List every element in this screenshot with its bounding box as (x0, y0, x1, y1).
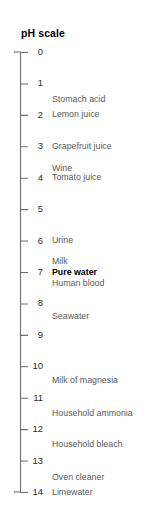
ph-scale-figure: pH scale 01234567891011121314 Stomach ac… (0, 0, 160, 522)
tick-label: 3 (0, 140, 43, 151)
tick-label: 9 (0, 329, 43, 340)
substance-label: Oven cleaner (52, 472, 104, 483)
tick-label: 10 (0, 360, 43, 371)
tick-label: 12 (0, 423, 43, 434)
tick-label: 0 (0, 46, 43, 57)
substance-label: Stomach acid (52, 94, 105, 105)
substance-label: Pure water (52, 267, 97, 278)
tick-label: 7 (0, 266, 43, 277)
substance-label: Grapefruit juice (52, 141, 112, 152)
substance-label: Household ammonia (52, 408, 133, 419)
tick-label: 6 (0, 235, 43, 246)
tick-label: 4 (0, 172, 43, 183)
tick-label: 8 (0, 297, 43, 308)
tick-label: 11 (0, 392, 43, 403)
tick-label: 14 (0, 486, 43, 497)
substance-label: Human blood (52, 278, 104, 289)
substance-label: Urine (52, 235, 73, 246)
tick-label: 5 (0, 203, 43, 214)
substance-label: Milk of magnesia (52, 375, 118, 386)
page-title: pH scale (21, 27, 65, 39)
tick-label: 13 (0, 455, 43, 466)
substance-label: Tomato juice (52, 172, 101, 183)
substance-label: Milk (52, 256, 68, 267)
tick-label: 1 (0, 77, 43, 88)
substance-label: Limewater (52, 487, 93, 498)
tick-label: 2 (0, 109, 43, 120)
substance-label: Seawater (52, 311, 89, 322)
substance-label: Household bleach (52, 439, 122, 450)
substance-label: Lemon juice (52, 109, 99, 120)
